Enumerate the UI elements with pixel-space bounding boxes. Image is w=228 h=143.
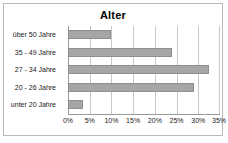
bar-row	[68, 79, 220, 97]
xtick-label-5: 5%	[79, 117, 101, 124]
bar-row	[68, 61, 220, 79]
chart-frame: Alter über 50 Jahre 35 - 49 Jahre 27 - 3…	[3, 3, 223, 136]
xtick-label-15: 15%	[122, 117, 144, 124]
xtick-label-0: 0%	[57, 117, 79, 124]
bar-row	[68, 44, 220, 62]
xtick-label-25: 25%	[166, 117, 188, 124]
bar-27-34-jahre[interactable]	[68, 65, 209, 74]
category-label-unter-20-jahre: unter 20 Jahre	[0, 101, 56, 108]
bar-row	[68, 26, 220, 44]
chart-title: Alter	[4, 9, 222, 21]
bar-ueber-50-jahre[interactable]	[68, 30, 111, 39]
x-axis-line	[68, 114, 220, 115]
bar-20-26-jahre[interactable]	[68, 83, 194, 92]
bar-unter-20-jahre[interactable]	[68, 100, 83, 109]
xtick-label-20: 20%	[144, 117, 166, 124]
xtick-label-30: 30%	[187, 117, 209, 124]
bar-row	[68, 96, 220, 114]
category-label-27-34-jahre: 27 - 34 Jahre	[0, 66, 56, 73]
plot-area	[68, 26, 220, 114]
xtick-label-10: 10%	[100, 117, 122, 124]
category-label-20-26-jahre: 20 - 26 Jahre	[0, 84, 56, 91]
bar-35-49-jahre[interactable]	[68, 48, 172, 57]
category-label-35-49-jahre: 35 - 49 Jahre	[0, 49, 56, 56]
xtick-label-35: 35%	[208, 117, 228, 124]
category-label-ueber-50-jahre: über 50 Jahre	[0, 31, 56, 38]
